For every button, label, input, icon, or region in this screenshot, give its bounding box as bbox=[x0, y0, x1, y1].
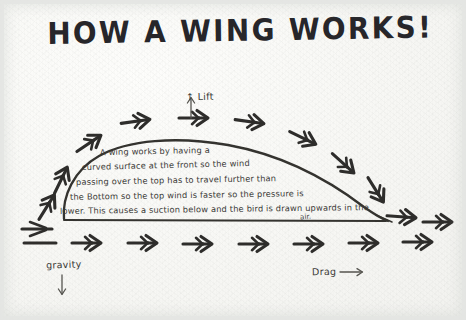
drag-arrow-icon bbox=[340, 269, 363, 276]
airflow-arrow-icon bbox=[294, 237, 323, 252]
airflow-arrow-icon bbox=[349, 236, 378, 251]
lift-text: Lift bbox=[197, 91, 213, 102]
gravity-label: gravity bbox=[46, 258, 82, 270]
airflow-arrow-icon bbox=[120, 112, 151, 131]
airflow-arrow-icon bbox=[423, 215, 452, 230]
airflow-arrow-icon bbox=[72, 236, 101, 251]
airflow-arrow-icon bbox=[128, 236, 157, 251]
airflow-arrow-icon bbox=[179, 111, 208, 126]
airflow-arrow-icon bbox=[403, 235, 432, 250]
gravity-arrow-icon bbox=[58, 275, 65, 295]
airflow-arrow-icon bbox=[286, 125, 319, 151]
airflow-arrows-bottom bbox=[72, 235, 432, 252]
airflow-arrow-icon bbox=[239, 237, 268, 252]
page-title: HOW A WING WORKS! bbox=[47, 9, 433, 51]
airflow-arrow-icon bbox=[234, 112, 265, 131]
paper-sheet: HOW A WING WORKS! ↑ Lift gravity Drag A … bbox=[0, 0, 466, 320]
lift-arrow-glyph: ↑ bbox=[186, 91, 195, 102]
airflow-arrow-icon bbox=[33, 191, 61, 224]
airflow-arrow-icon bbox=[327, 148, 359, 179]
airflow-arrow-icon bbox=[183, 237, 212, 252]
lift-label: ↑ Lift bbox=[186, 91, 214, 103]
airflow-arrows-leading-edge bbox=[22, 191, 61, 243]
airflow-arrow-icon bbox=[387, 208, 417, 225]
explanation-line: air. bbox=[300, 212, 312, 221]
drag-label: Drag bbox=[312, 266, 336, 277]
